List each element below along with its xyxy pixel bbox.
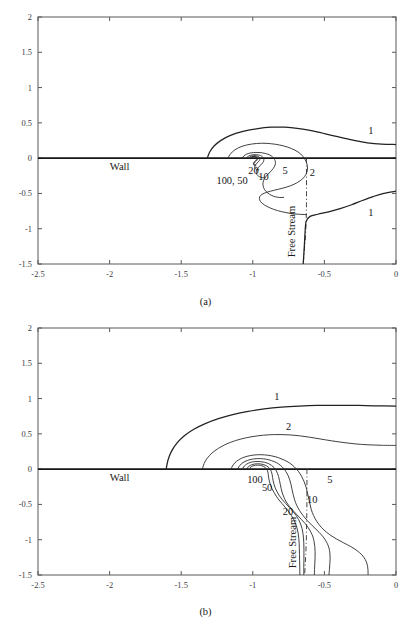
contour-line-1 xyxy=(166,405,396,469)
wall-label: Wall xyxy=(110,472,130,483)
panel-b-caption: (b) xyxy=(0,606,411,617)
contour-label-10: 10 xyxy=(258,171,268,182)
contour-label-10: 10 xyxy=(307,494,317,505)
wall-label: Wall xyxy=(110,161,130,172)
contour-label-5: 5 xyxy=(327,474,332,485)
x-axis-tick-label: -1 xyxy=(249,270,256,279)
contour-label-2: 2 xyxy=(310,167,315,178)
contour-label-100-50: 100, 50 xyxy=(216,175,247,186)
contour-label-50: 50 xyxy=(262,482,272,493)
contour-label-20: 20 xyxy=(248,165,258,176)
panel-b-plot: -2.5-2-1.5-1-0.50-1.5-1-0.500.511.521005… xyxy=(0,311,411,601)
y-axis-tick-label: -0.5 xyxy=(19,500,32,509)
free-stream-label: Free Stream xyxy=(287,516,298,568)
y-axis-tick-label: -1.5 xyxy=(19,260,32,269)
y-axis-tick-label: -1 xyxy=(25,225,32,234)
x-axis-tick-label: -0.5 xyxy=(318,581,331,590)
y-axis-tick-label: -0.5 xyxy=(19,189,32,198)
x-axis-tick-label: -2 xyxy=(106,581,113,590)
x-axis-tick-label: -1.5 xyxy=(175,270,188,279)
plot-frame xyxy=(38,328,396,575)
x-axis-tick-label: -2 xyxy=(106,270,113,279)
x-axis-tick-label: 0 xyxy=(394,581,398,590)
y-axis-tick-label: 0 xyxy=(28,154,32,163)
contour-label-1-upper: 1 xyxy=(368,125,373,136)
contour-label-1: 1 xyxy=(274,391,279,402)
panel-a-caption: (a) xyxy=(0,296,411,307)
y-axis-tick-label: 1 xyxy=(28,84,32,93)
y-axis-tick-label: 1 xyxy=(28,395,32,404)
y-axis-tick-label: 2 xyxy=(28,324,32,333)
y-axis-tick-label: 0.5 xyxy=(22,119,32,128)
x-axis-tick-label: -0.5 xyxy=(318,270,331,279)
y-axis-tick-label: 0.5 xyxy=(22,430,32,439)
contour-label-2: 2 xyxy=(286,421,291,432)
y-axis-tick-label: 2 xyxy=(28,13,32,22)
contour-label-5: 5 xyxy=(282,165,287,176)
panel-a-plot: -2.5-2-1.5-1-0.50-1.5-1-0.500.511.52100,… xyxy=(0,0,411,290)
contour-label-20: 20 xyxy=(283,506,293,517)
panel-b: -2.5-2-1.5-1-0.50-1.5-1-0.500.511.521005… xyxy=(0,311,411,632)
x-axis-tick-label: -2.5 xyxy=(31,270,44,279)
x-axis-tick-label: 0 xyxy=(394,270,398,279)
contour-figure: -2.5-2-1.5-1-0.50-1.5-1-0.500.511.52100,… xyxy=(0,0,411,632)
contour-label-1-lower: 1 xyxy=(368,207,373,218)
y-axis-tick-label: -1.5 xyxy=(19,571,32,580)
panel-a: -2.5-2-1.5-1-0.50-1.5-1-0.500.511.52100,… xyxy=(0,0,411,316)
y-axis-tick-label: 1.5 xyxy=(22,48,32,57)
x-axis-tick-label: -1 xyxy=(249,581,256,590)
y-axis-tick-label: -1 xyxy=(25,536,32,545)
x-axis-tick-label: -2.5 xyxy=(31,581,44,590)
x-axis-tick-label: -1.5 xyxy=(175,581,188,590)
plot-frame xyxy=(38,17,396,264)
y-axis-tick-label: 1.5 xyxy=(22,359,32,368)
contour-line-1-lower xyxy=(303,191,396,264)
contour-label-100: 100 xyxy=(247,474,263,485)
free-stream-label: Free Stream xyxy=(286,205,297,257)
y-axis-tick-label: 0 xyxy=(28,465,32,474)
contour-line-2 xyxy=(202,435,396,470)
